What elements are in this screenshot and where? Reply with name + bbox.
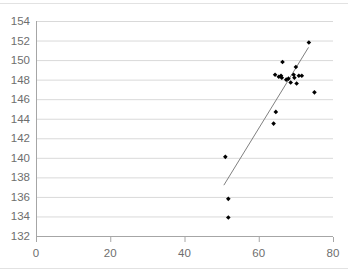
x-tick-marks-group xyxy=(37,237,334,242)
x-tick-label-80: 80 xyxy=(327,247,340,259)
y-tick-label-142: 142 xyxy=(11,132,30,144)
data-point xyxy=(300,73,305,78)
scatter-chart: 132134136138140142144146148150152154 020… xyxy=(0,0,348,276)
data-point xyxy=(294,81,299,86)
data-point xyxy=(274,110,279,115)
y-axis-tick-labels: 132134136138140142144146148150152154 xyxy=(11,15,31,242)
data-point xyxy=(312,90,317,95)
y-tick-label-150: 150 xyxy=(11,54,30,66)
y-tick-label-146: 146 xyxy=(11,93,30,105)
data-points-group xyxy=(223,40,317,220)
data-point xyxy=(288,80,293,85)
y-tick-label-132: 132 xyxy=(11,230,30,242)
x-tick-label-60: 60 xyxy=(252,247,265,259)
axes-group xyxy=(36,21,333,237)
data-point xyxy=(226,215,231,220)
y-tick-label-138: 138 xyxy=(11,171,30,183)
x-tick-label-0: 0 xyxy=(33,247,39,259)
y-tick-label-154: 154 xyxy=(11,15,31,27)
y-tick-label-140: 140 xyxy=(11,152,30,164)
y-tick-label-144: 144 xyxy=(11,113,31,125)
y-tick-label-134: 134 xyxy=(11,210,31,222)
x-tick-label-20: 20 xyxy=(104,247,117,259)
data-point xyxy=(273,72,278,77)
x-axis-tick-labels: 020406080 xyxy=(33,247,340,259)
y-tick-label-152: 152 xyxy=(11,35,30,47)
x-tick-label-40: 40 xyxy=(178,247,191,259)
y-tick-label-148: 148 xyxy=(11,74,30,86)
data-point xyxy=(271,121,276,126)
plot-svg: 132134136138140142144146148150152154 020… xyxy=(0,0,348,276)
y-tick-label-136: 136 xyxy=(11,191,30,203)
gridlines-group xyxy=(36,22,333,217)
